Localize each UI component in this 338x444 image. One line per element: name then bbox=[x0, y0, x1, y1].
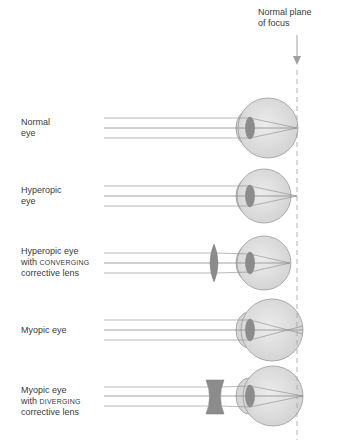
hyperopic-eye-diagram bbox=[104, 169, 297, 223]
myopic-eye-diagram bbox=[104, 299, 303, 361]
diverging-lens-icon bbox=[206, 380, 224, 414]
hyperopic-corrected-diagram bbox=[104, 236, 291, 290]
down-arrow-icon bbox=[293, 35, 301, 65]
optics-diagram bbox=[0, 0, 338, 444]
myopic-corrected-diagram bbox=[104, 366, 303, 426]
normal-eye-diagram bbox=[104, 98, 298, 158]
